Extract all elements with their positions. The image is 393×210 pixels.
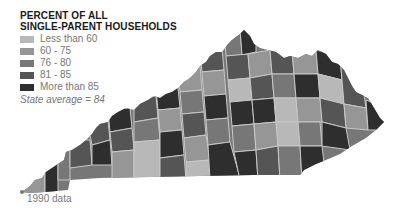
kentucky-county-map (0, 0, 393, 210)
data-year-note: 1990 data (27, 193, 72, 204)
